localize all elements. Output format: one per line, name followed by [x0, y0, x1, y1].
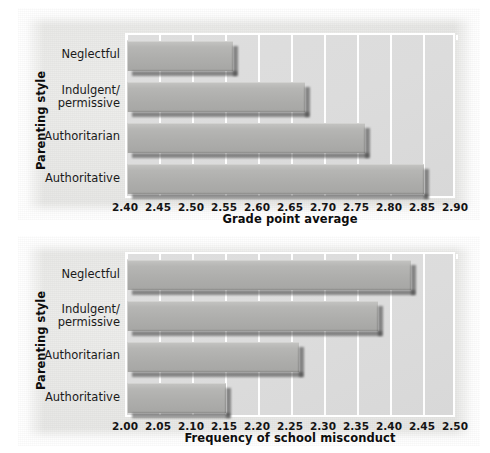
tick-mark: [258, 35, 260, 40]
tick-mark: [291, 254, 293, 259]
figure-page: Parenting style Neglectful Indulgent/per…: [0, 0, 490, 453]
scan-fade-right-2: [454, 236, 480, 446]
tick-mark: [390, 254, 392, 259]
tick-mark: [423, 254, 425, 259]
tick-mark: [258, 254, 260, 259]
tick-mark: [291, 35, 293, 40]
tick-mark: [357, 35, 359, 40]
bar-shadow-right: [226, 388, 231, 418]
bar-shadow-right: [305, 87, 310, 117]
category-label-authoritarian-bottom: Authoritarian: [30, 349, 120, 362]
bar-shadow-bottom: [132, 71, 237, 76]
bar-authoritarian: [127, 123, 365, 153]
tick-mark: [126, 254, 128, 259]
bar-shadow-bottom: [132, 153, 369, 158]
plot-area-misconduct: [125, 252, 455, 417]
tick-mark: [159, 254, 161, 259]
tick-mark: [225, 35, 227, 40]
tick-mark: [126, 35, 128, 40]
category-label-neglectful-top: Neglectful: [40, 48, 120, 61]
bar-authoritarian: [127, 342, 299, 372]
tick-mark: [225, 254, 227, 259]
bar-authoritative: [127, 164, 424, 194]
bar-shadow-bottom: [132, 194, 428, 199]
bar-shadow-bottom: [132, 112, 309, 117]
category-label-indulgent-bottom: Indulgent/permissive: [40, 303, 120, 329]
x-axis-title-misconduct: Frequency of school misconduct: [125, 431, 455, 445]
category-label-authoritative-bottom: Authoritative: [30, 391, 120, 404]
scan-fade-top: [18, 8, 480, 26]
bar-shadow-right: [424, 169, 429, 199]
bar-shadow-bottom: [132, 413, 230, 418]
category-label-neglectful-bottom: Neglectful: [40, 268, 120, 281]
bar-shadow-bottom: [132, 290, 415, 295]
plot-area-gpa: [125, 33, 455, 198]
tick-mark: [357, 254, 359, 259]
tick-mark: [456, 35, 458, 40]
tick-mark: [324, 254, 326, 259]
tick-mark: [390, 35, 392, 40]
bar-neglectful: [127, 260, 411, 290]
bar-neglectful: [127, 41, 233, 71]
bar-indulgent-permissive: [127, 82, 305, 112]
tick-mark: [192, 35, 194, 40]
tick-mark: [192, 254, 194, 259]
tick-mark: [456, 254, 458, 259]
bar-shadow-right: [299, 347, 304, 377]
bar-shadow-bottom: [132, 372, 303, 377]
tick-mark: [423, 35, 425, 40]
tick-mark: [324, 35, 326, 40]
gridline: [423, 254, 425, 415]
bar-shadow-right: [411, 265, 416, 295]
bar-shadow-right: [378, 306, 383, 336]
category-label-authoritative-top: Authoritative: [30, 172, 120, 185]
bar-indulgent-permissive: [127, 301, 378, 331]
bar-shadow-right: [365, 128, 370, 158]
tick-mark: [159, 35, 161, 40]
x-axis-title-gpa: Grade point average: [125, 212, 455, 226]
bar-shadow-right: [233, 46, 238, 76]
bar-shadow-bottom: [132, 331, 382, 336]
bar-authoritative: [127, 383, 226, 413]
category-label-authoritarian-top: Authoritarian: [30, 130, 120, 143]
category-label-indulgent-top: Indulgent/permissive: [40, 84, 120, 110]
